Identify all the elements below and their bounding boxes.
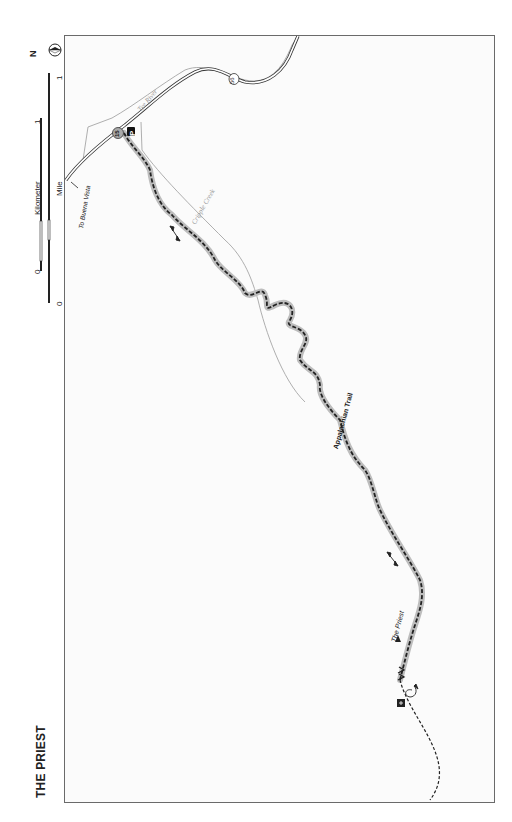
to-buena-vista-arrow-icon	[71, 182, 78, 188]
shelter-icon	[397, 699, 405, 707]
trail-continuation	[400, 680, 439, 800]
direction-arrow-icon	[170, 226, 180, 241]
map-features	[0, 0, 512, 822]
trailhead-15-label: 15	[114, 130, 120, 137]
route-56-road	[66, 36, 298, 180]
cripple-creek	[141, 122, 305, 402]
route-56-label: 56	[229, 77, 235, 84]
appalachian-trail-halo	[124, 133, 422, 680]
direction-arrow-icon	[387, 552, 398, 566]
parking-label: P	[128, 131, 137, 136]
tye-river	[83, 36, 298, 160]
turnaround-arrow-icon	[406, 684, 418, 697]
